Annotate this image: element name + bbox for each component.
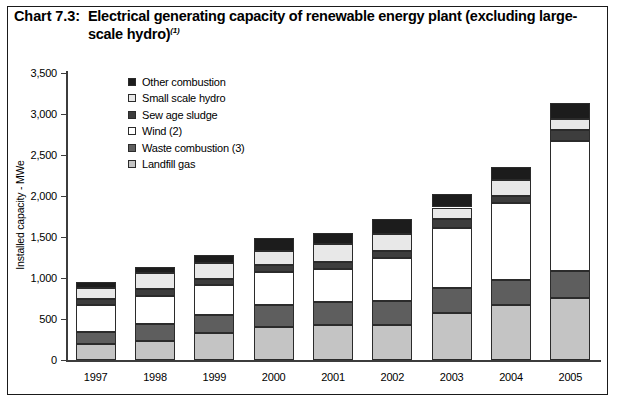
legend-swatch-icon: [128, 111, 136, 119]
bar-group: 2000: [244, 73, 303, 360]
x-axis-tick-label: 1998: [125, 360, 184, 383]
bar-segment[interactable]: [550, 298, 590, 360]
bar-group: 2003: [422, 73, 481, 360]
bar-segment[interactable]: [135, 296, 175, 323]
bar-segment[interactable]: [194, 285, 234, 315]
bar-segment[interactable]: [372, 234, 412, 251]
chart-title: Chart 7.3: Electrical generating capacit…: [14, 8, 594, 43]
bar-segment[interactable]: [313, 269, 353, 303]
bar-segment[interactable]: [372, 219, 412, 234]
bar-group: 2004: [481, 73, 540, 360]
bar-segment[interactable]: [76, 332, 116, 344]
bar-segment[interactable]: [550, 119, 590, 131]
legend-item: Sew age sludge: [128, 107, 245, 122]
bar-segment[interactable]: [254, 305, 294, 327]
stacked-bar[interactable]: [76, 73, 116, 360]
bar-group: 1997: [66, 73, 125, 360]
bar-segment[interactable]: [76, 305, 116, 332]
bar-segment[interactable]: [432, 313, 472, 360]
bar-segment[interactable]: [76, 344, 116, 360]
bar-segment[interactable]: [432, 288, 472, 313]
stacked-bar[interactable]: [254, 73, 294, 360]
bar-segment[interactable]: [254, 327, 294, 360]
bar-segment[interactable]: [491, 203, 531, 280]
bar-segment[interactable]: [491, 180, 531, 196]
stacked-bar[interactable]: [313, 73, 353, 360]
x-axis-tick-label: 2003: [422, 360, 481, 383]
legend-item-label: Small scale hydro: [142, 92, 225, 104]
chart-figure: Chart 7.3: Electrical generating capacit…: [0, 0, 617, 403]
bar-segment[interactable]: [550, 271, 590, 297]
legend-item-label: Landfill gas: [142, 158, 195, 170]
chart-legend: Other combustionSmall scale hydroSew age…: [128, 74, 245, 173]
bar-segment[interactable]: [76, 288, 116, 299]
bar-segment[interactable]: [491, 196, 531, 203]
bar-segment[interactable]: [194, 333, 234, 360]
bar-segment[interactable]: [372, 258, 412, 301]
legend-swatch-icon: [128, 127, 136, 135]
bar-segment[interactable]: [194, 279, 234, 285]
legend-item: Other combustion: [128, 74, 245, 89]
legend-item: Small scale hydro: [128, 91, 245, 106]
bar-segment[interactable]: [313, 325, 353, 360]
bar-segment[interactable]: [313, 244, 353, 262]
bar-segment[interactable]: [135, 324, 175, 342]
bar-segment[interactable]: [76, 299, 116, 306]
y-axis-tick-label: 3,000: [30, 108, 57, 120]
bar-segment[interactable]: [372, 301, 412, 325]
y-axis-tick-label: 0: [51, 354, 57, 366]
bar-segment[interactable]: [432, 228, 472, 289]
bar-segment[interactable]: [135, 273, 175, 289]
legend-item: Wind (2): [128, 124, 245, 139]
bar-segment[interactable]: [491, 167, 531, 181]
bar-segment[interactable]: [550, 141, 590, 271]
chart-title-footnote-marker: (1): [170, 26, 179, 35]
bar-segment[interactable]: [372, 251, 412, 258]
bar-segment[interactable]: [550, 103, 590, 118]
bar-segment[interactable]: [491, 305, 531, 360]
legend-item-label: Sew age sludge: [142, 109, 217, 121]
y-axis-tick-label: 1,000: [30, 272, 57, 284]
bar-segment[interactable]: [432, 194, 472, 208]
bar-segment[interactable]: [194, 315, 234, 334]
y-axis-tick-label: 3,500: [30, 67, 57, 79]
y-axis-tick-label: 2,500: [30, 149, 57, 161]
bar-segment[interactable]: [491, 280, 531, 305]
legend-swatch-icon: [128, 78, 136, 86]
stacked-bar[interactable]: [550, 73, 590, 360]
bar-segment[interactable]: [135, 267, 175, 273]
legend-item: Waste combustion (3): [128, 140, 245, 155]
y-axis-title: Installed capacity - MWe: [14, 140, 26, 290]
bar-segment[interactable]: [313, 262, 353, 269]
stacked-bar[interactable]: [432, 73, 472, 360]
legend-swatch-icon: [128, 144, 136, 152]
bar-group: 2005: [541, 73, 600, 360]
bar-segment[interactable]: [550, 130, 590, 141]
bar-segment[interactable]: [194, 263, 234, 279]
bar-segment[interactable]: [254, 272, 294, 305]
bar-segment[interactable]: [135, 341, 175, 360]
y-axis-tick-label: 500: [39, 313, 57, 325]
x-axis-tick-label: 2000: [244, 360, 303, 383]
bar-segment[interactable]: [194, 255, 234, 263]
x-axis-tick-label: 2005: [541, 360, 600, 383]
bar-segment[interactable]: [313, 233, 353, 245]
bar-segment[interactable]: [254, 251, 294, 265]
bar-segment[interactable]: [254, 265, 294, 272]
bar-segment[interactable]: [432, 219, 472, 228]
bar-segment[interactable]: [432, 208, 472, 219]
stacked-bar[interactable]: [491, 73, 531, 360]
legend-swatch-icon: [128, 94, 136, 102]
legend-item: Landfill gas: [128, 157, 245, 172]
bar-segment[interactable]: [372, 325, 412, 360]
legend-swatch-icon: [128, 160, 136, 168]
legend-item-label: Wind (2): [142, 125, 182, 137]
bar-segment[interactable]: [135, 289, 175, 296]
legend-item-label: Waste combustion (3): [142, 142, 245, 154]
bar-segment[interactable]: [76, 282, 116, 288]
bar-segment[interactable]: [254, 238, 294, 251]
bar-segment[interactable]: [313, 302, 353, 325]
x-axis-tick-label: 2002: [363, 360, 422, 383]
chart-title-text: Electrical generating capacity of renewa…: [88, 8, 594, 43]
stacked-bar[interactable]: [372, 73, 412, 360]
